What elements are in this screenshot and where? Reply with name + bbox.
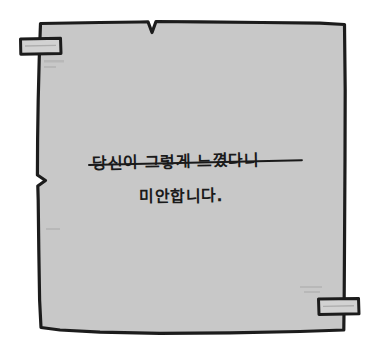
tape-bottom-right (319, 298, 360, 314)
paper-sheet (37, 22, 345, 334)
tape-top-left (21, 38, 62, 54)
note-illustration (0, 0, 383, 358)
note-scene: 당신이 그렇게 느꼈다니 미안합니다. (0, 0, 383, 358)
